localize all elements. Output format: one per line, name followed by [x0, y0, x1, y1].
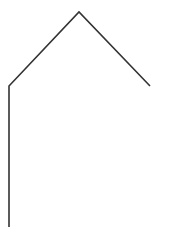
line-drawing — [0, 0, 175, 239]
drawing-canvas — [0, 0, 175, 239]
peaked-polyline — [9, 12, 150, 227]
